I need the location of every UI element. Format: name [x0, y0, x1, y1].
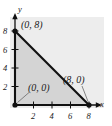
y-axis-arrowhead [12, 13, 17, 19]
y-tick-label-4: 4 [3, 64, 7, 73]
y-tick-label-6: 6 [3, 46, 7, 55]
y-tick-label-8: 8 [3, 27, 7, 36]
x-tick-label-2: 2 [31, 112, 35, 121]
coordinate-plot [0, 0, 112, 126]
x-tick-label-8: 8 [87, 112, 91, 121]
point-label-x-intercept: (8, 0) [63, 75, 85, 85]
point-marker-origin [12, 102, 17, 107]
point-marker-x-intercept [86, 102, 91, 107]
point-label-y-intercept: (0, 8) [21, 20, 43, 30]
y-axis-label: y [18, 5, 22, 14]
graph-figure: x y 2 4 6 8 2 4 6 8 (0, 8) (0, 0) (8, 0) [0, 0, 112, 126]
point-marker-y-intercept [12, 28, 17, 33]
x-tick-label-6: 6 [68, 112, 72, 121]
x-tick-label-4: 4 [50, 112, 54, 121]
y-tick-label-2: 2 [3, 83, 7, 92]
x-axis-label: x [100, 100, 104, 109]
point-label-origin: (0, 0) [28, 83, 50, 93]
